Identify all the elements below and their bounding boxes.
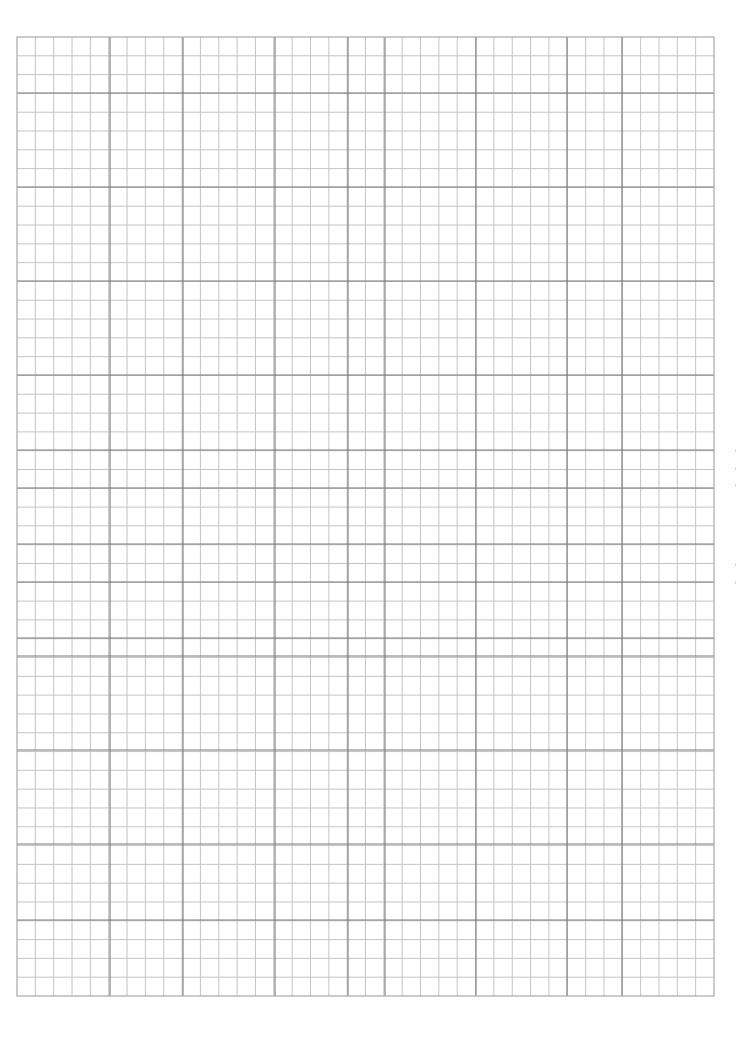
graph-paper-sheet <box>0 0 749 1049</box>
scan-speck <box>735 484 736 487</box>
minor-grid-lines <box>17 37 714 996</box>
scan-speck <box>735 581 736 584</box>
scan-speck <box>735 467 736 470</box>
scan-speck <box>735 449 736 452</box>
scan-speck <box>735 563 736 566</box>
graph-grid <box>0 0 749 1049</box>
